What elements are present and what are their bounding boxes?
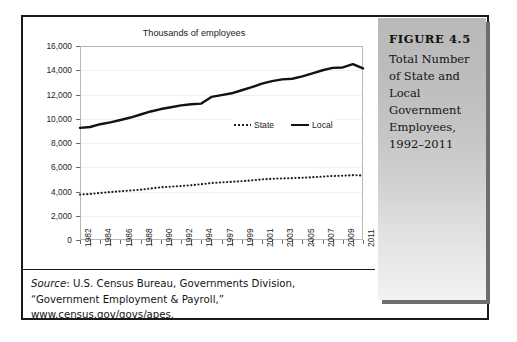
- figure-caption-body: Total Number of State and Local Governme…: [389, 51, 476, 153]
- x-axis-tick: [242, 240, 243, 244]
- y-axis-tick: [76, 143, 80, 144]
- chart-legend: State Local: [232, 119, 335, 131]
- x-axis-tick: [161, 240, 162, 244]
- x-axis-tick-label: 1992: [184, 228, 194, 247]
- legend-label-local: Local: [312, 120, 333, 130]
- y-axis-tick: [76, 192, 80, 193]
- x-axis-tick-label: 2005: [306, 228, 316, 247]
- y-axis-tick-label: 0: [24, 235, 72, 245]
- x-axis-tick-label: 2003: [285, 228, 295, 247]
- chart-region: Thousands of employees 16,00014,00012,00…: [24, 18, 374, 266]
- legend-item-local: Local: [291, 120, 333, 130]
- x-axis-tick: [100, 240, 101, 244]
- x-axis-tick-label: 2009: [346, 228, 356, 247]
- x-axis-tick: [201, 240, 202, 244]
- figure-caption-panel: FIGURE 4.5 Total Number of State and Loc…: [378, 18, 486, 300]
- x-axis-tick-label: 1997: [225, 228, 235, 247]
- x-axis-tick-label: 1988: [144, 228, 154, 247]
- x-axis-tick-label: 2001: [265, 228, 275, 247]
- y-axis-tick-label: 2,000: [24, 211, 72, 221]
- y-axis-tick: [76, 46, 80, 47]
- figure-root: FIGURE 4.5 Total Number of State and Loc…: [0, 0, 517, 342]
- y-axis-tick: [76, 70, 80, 71]
- chart-plot-area: [80, 46, 363, 240]
- legend-label-state: State: [254, 120, 274, 130]
- x-axis-tick-label: 1990: [164, 228, 174, 247]
- y-axis-tick-label: 4,000: [24, 187, 72, 197]
- x-axis-tick: [80, 240, 81, 244]
- source-note: Source: U.S. Census Bureau, Governments …: [31, 276, 361, 323]
- y-axis-tick: [76, 95, 80, 96]
- y-axis-tick-label: 6,000: [24, 162, 72, 172]
- solid-line-icon: [291, 124, 309, 126]
- y-axis-tick-label: 16,000: [24, 41, 72, 51]
- gridline: [81, 70, 362, 71]
- x-axis-tick-label: 1982: [83, 228, 93, 247]
- y-axis-tick-label: 14,000: [24, 65, 72, 75]
- x-axis-tick: [343, 240, 344, 244]
- y-axis-tick: [76, 167, 80, 168]
- legend-item-state: State: [234, 120, 274, 130]
- gridline: [81, 192, 362, 193]
- x-axis-tick: [282, 240, 283, 244]
- x-axis-tick-label: 1999: [245, 228, 255, 247]
- x-axis-tick-label: 1994: [204, 228, 214, 247]
- caption-panel-shadow-right: [486, 22, 490, 304]
- y-axis-tick-label: 8,000: [24, 138, 72, 148]
- x-axis-tick: [222, 240, 223, 244]
- source-label: Source: [31, 278, 66, 289]
- dotted-line-icon: [234, 124, 251, 126]
- chart-title: Thousands of employees: [24, 28, 364, 38]
- x-axis-tick: [141, 240, 142, 244]
- x-axis-tick-label: 1984: [103, 228, 113, 247]
- source-divider: [23, 269, 375, 270]
- x-axis-tick: [262, 240, 263, 244]
- gridline: [81, 143, 362, 144]
- x-axis-tick: [120, 240, 121, 244]
- y-axis-tick: [76, 216, 80, 217]
- y-axis-tick: [76, 119, 80, 120]
- gridline: [81, 216, 362, 217]
- gridline: [81, 167, 362, 168]
- source-text: : U.S. Census Bureau, Governments Divisi…: [31, 278, 295, 320]
- x-axis-tick-label: 1986: [124, 228, 134, 247]
- caption-panel-shadow-bottom: [382, 300, 490, 304]
- gridline: [81, 95, 362, 96]
- x-axis-tick: [302, 240, 303, 244]
- y-axis-tick-label: 12,000: [24, 90, 72, 100]
- x-axis-tick: [363, 240, 364, 244]
- x-axis-tick: [323, 240, 324, 244]
- x-axis-tick: [181, 240, 182, 244]
- figure-caption-title: FIGURE 4.5: [389, 32, 476, 46]
- x-axis-tick-label: 2007: [326, 228, 336, 247]
- x-axis-tick-label: 2011: [366, 229, 376, 247]
- y-axis-tick-label: 10,000: [24, 114, 72, 124]
